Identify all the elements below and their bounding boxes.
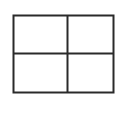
table-grid-icon <box>0 0 120 117</box>
